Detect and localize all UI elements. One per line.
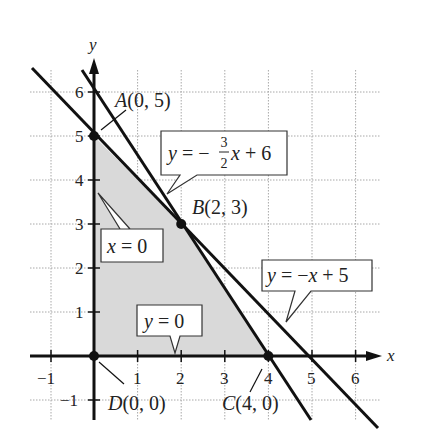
chart: −1 1 2 3 4 5 6 6 5 4 3 2 1 −1 x y A(0, 5… (0, 0, 424, 435)
svg-text:2: 2 (75, 259, 84, 278)
svg-text:3: 3 (75, 215, 84, 234)
leader-c (250, 369, 262, 392)
svg-text:y = −x + 5: y = −x + 5 (265, 264, 349, 287)
svg-text:4: 4 (264, 369, 273, 388)
line-y-eq-neg-x-plus-5 (32, 68, 378, 428)
leader-a (101, 110, 126, 130)
x-axis-label: x (386, 346, 395, 365)
label-point-c: C(4, 0) (222, 392, 279, 415)
svg-text:−1: −1 (60, 391, 78, 410)
y-axis-label: y (87, 35, 97, 54)
point-b (176, 219, 186, 229)
y-tick-labels: 6 5 4 3 2 1 −1 (60, 83, 84, 410)
svg-text:3: 3 (221, 135, 228, 150)
x-axis-arrow-icon (366, 351, 382, 361)
label-point-b: B(2, 3) (192, 196, 248, 219)
callout-line-2: y = −x + 5 (262, 260, 372, 322)
svg-text:1: 1 (75, 303, 84, 322)
svg-text:x = 0: x = 0 (106, 235, 147, 257)
svg-text:6: 6 (75, 83, 84, 102)
svg-text:x + 6: x + 6 (230, 142, 271, 164)
svg-text:5: 5 (307, 369, 316, 388)
point-d (89, 351, 99, 361)
label-point-a: A(0, 5) (113, 89, 171, 112)
svg-text:6: 6 (351, 369, 360, 388)
svg-text:y = −: y = − (166, 142, 209, 165)
svg-text:3: 3 (220, 369, 229, 388)
svg-text:2: 2 (176, 369, 185, 388)
label-point-d: D(0, 0) (107, 392, 166, 415)
svg-text:2: 2 (221, 156, 228, 171)
x-tick-labels: −1 1 2 3 4 5 6 (37, 369, 360, 388)
svg-text:5: 5 (75, 127, 84, 146)
point-c (263, 351, 273, 361)
svg-text:y = 0: y = 0 (142, 310, 184, 333)
y-axis-arrow-icon (89, 58, 99, 74)
svg-text:4: 4 (75, 171, 84, 190)
leader-d (99, 362, 124, 384)
svg-text:1: 1 (133, 369, 142, 388)
svg-text:−1: −1 (37, 369, 55, 388)
point-a (89, 131, 99, 141)
